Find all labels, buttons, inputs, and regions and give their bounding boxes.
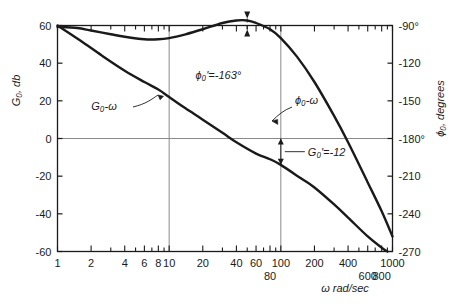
right-axis-title: ϕ₀, degrees	[434, 80, 446, 137]
left-tick-label: -60	[36, 246, 52, 258]
bottom-tick-label: 1000	[380, 257, 404, 269]
bottom-tick-label: 10	[163, 257, 175, 269]
left-tick-label: 60	[39, 20, 51, 32]
bottom-tick-label: 8	[155, 257, 161, 269]
plot-canvas: 6040200-20-40-60-90°-120-150-180°-210-24…	[0, 0, 454, 304]
right-tick-label: -210	[399, 170, 421, 182]
bottom-tick-label: 20	[197, 257, 209, 269]
left-axis-title: G₀, db	[10, 75, 22, 107]
bottom-tick-label: 40	[230, 257, 242, 269]
phase-curve-label: ϕ₀-ω	[295, 94, 318, 106]
bottom-tick-label: 2	[88, 257, 94, 269]
bottom-tick-label-lower: 80	[264, 270, 276, 282]
left-tick-label: -20	[36, 170, 52, 182]
bottom-tick-label: 100	[272, 257, 290, 269]
right-tick-label: -180°	[399, 133, 425, 145]
bottom-tick-label: 400	[339, 257, 357, 269]
gain-margin-label: G₀'=-12	[308, 146, 346, 158]
gain-curve-label: G₀-ω	[91, 100, 117, 112]
left-tick-label: 40	[39, 57, 51, 69]
right-tick-label: -150	[399, 95, 421, 107]
right-tick-label: -90°	[399, 20, 419, 32]
bottom-tick-label: 1	[54, 257, 60, 269]
bode-plot-figure: 6040200-20-40-60-90°-120-150-180°-210-24…	[0, 0, 454, 304]
bottom-tick-label: 60	[250, 257, 262, 269]
left-tick-label: 20	[39, 95, 51, 107]
bottom-axis-title: ω rad/sec	[321, 282, 369, 294]
left-tick-label: 0	[45, 133, 51, 145]
right-tick-label: -120	[399, 57, 421, 69]
bottom-tick-label-lower: 800	[372, 270, 390, 282]
bottom-tick-label: 200	[305, 257, 323, 269]
right-tick-label: -240	[399, 208, 421, 220]
bottom-tick-label: 4	[122, 257, 128, 269]
left-tick-label: -40	[36, 208, 52, 220]
phase-margin-label: ϕ₀'=-163°	[196, 69, 242, 81]
bottom-tick-label: 6	[141, 257, 147, 269]
